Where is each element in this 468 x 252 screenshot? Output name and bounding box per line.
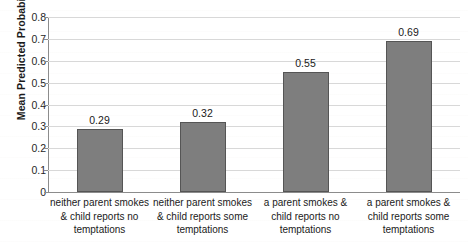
- bar: [386, 41, 432, 192]
- y-axis-tick-mark: [44, 170, 48, 171]
- category-label-line: temptations: [254, 223, 357, 237]
- category-label-line: temptations: [357, 223, 460, 237]
- category-label-line: & child reports some: [151, 210, 254, 224]
- y-axis-tick-label: 0: [22, 186, 46, 198]
- bar-value-label: 0.55: [269, 57, 343, 69]
- y-axis-tick-label: 0.5: [22, 77, 46, 89]
- bar: [180, 122, 226, 192]
- y-axis-tick-mark: [44, 39, 48, 40]
- category-label-line: neither parent smokes: [48, 196, 151, 210]
- bar: [77, 129, 123, 192]
- category-label: a parent smokes &child reports sometempt…: [357, 196, 460, 237]
- bar: [283, 72, 329, 192]
- y-axis-tick-mark: [44, 192, 48, 193]
- bar-chart: Mean Predicted Probabilities 0.80.70.60.…: [0, 0, 468, 252]
- y-axis-tick-label: 0.3: [22, 120, 46, 132]
- category-label: neither parent smokes& child reports not…: [48, 196, 151, 237]
- y-axis-tick-label: 0.4: [22, 99, 46, 111]
- bar-value-label: 0.69: [372, 26, 446, 38]
- y-axis-tick-mark: [44, 17, 48, 18]
- y-axis-tick-mark: [44, 61, 48, 62]
- category-label: a parent smokes &child reports notemptat…: [254, 196, 357, 237]
- y-axis-tick-label: 0.1: [22, 164, 46, 176]
- bar-value-label: 0.29: [63, 114, 137, 126]
- bar-value-label: 0.32: [166, 107, 240, 119]
- gridline: [48, 17, 460, 18]
- y-axis-tick-label: 0.6: [22, 55, 46, 67]
- y-axis-tick-label: 0.8: [22, 11, 46, 23]
- category-label-line: child reports no: [254, 210, 357, 224]
- category-label-line: child reports some: [357, 210, 460, 224]
- category-label-line: & child reports no: [48, 210, 151, 224]
- gridline: [48, 39, 460, 40]
- category-label-line: temptations: [48, 223, 151, 237]
- x-axis-line: [48, 192, 460, 193]
- y-axis-tick-mark: [44, 83, 48, 84]
- category-label-line: a parent smokes &: [254, 196, 357, 210]
- category-label-line: neither parent smokes: [151, 196, 254, 210]
- y-axis-tick-mark: [44, 126, 48, 127]
- y-axis-tick-label: 0.2: [22, 142, 46, 154]
- category-label-line: a parent smokes &: [357, 196, 460, 210]
- category-label-line: temptations: [151, 223, 254, 237]
- y-axis-tick-mark: [44, 105, 48, 106]
- x-axis-category-labels: neither parent smokes& child reports not…: [48, 196, 460, 246]
- category-label: neither parent smokes& child reports som…: [151, 196, 254, 237]
- y-axis-tick-mark: [44, 148, 48, 149]
- y-axis-tick-label: 0.7: [22, 33, 46, 45]
- y-axis-tick-labels: 0.80.70.60.50.40.30.20.10: [22, 0, 46, 252]
- plot-area: 0.290.320.550.69: [48, 17, 460, 192]
